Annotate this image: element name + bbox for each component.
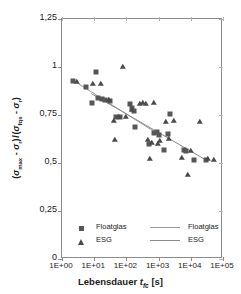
- data-point-esg: [129, 107, 135, 112]
- data-point-esg: [150, 100, 156, 105]
- data-point-floatglas: [157, 132, 162, 137]
- y-axis-tick-label: 1: [52, 61, 57, 70]
- data-point-esg: [122, 113, 128, 118]
- data-point-floatglas: [89, 100, 94, 105]
- legend-line-label: Floatglas: [188, 222, 218, 231]
- x-axis-tick-top: [191, 17, 192, 21]
- data-point-floatglas: [192, 158, 197, 163]
- y-axis-title: (σmax - σr) / (σfqs - σr): [11, 97, 23, 179]
- data-point-esg: [171, 118, 177, 123]
- data-point-esg: [211, 156, 217, 161]
- legend-row: ESGESG: [78, 234, 218, 246]
- y-axis-tick-label: 0,25: [39, 205, 57, 214]
- data-point-esg: [143, 101, 149, 106]
- y-axis-tick-labels: 00,250,50,7511,25: [0, 0, 57, 294]
- y-axis-tick: [58, 211, 62, 212]
- legend-row: FloatglasFloatglas: [78, 221, 218, 233]
- square-marker-icon: [78, 224, 87, 233]
- y-axis-tick: [58, 115, 62, 116]
- x-axis-tick-label: 1E+05: [210, 261, 233, 270]
- x-axis-tick-top: [62, 17, 63, 21]
- x-axis-tick-top: [159, 17, 160, 21]
- x-axis-tick-label: 1E+04: [178, 261, 201, 270]
- data-point-esg: [90, 81, 96, 86]
- triangle-marker-icon: [78, 237, 87, 246]
- data-point-esg: [112, 137, 118, 142]
- legend-marker-label: Floatglas: [96, 222, 126, 231]
- x-axis-tick-labels: 1E+001E+011E+021E+031E+041E+05: [0, 261, 241, 275]
- data-point-esg: [157, 138, 163, 143]
- x-axis-title-text: Lebensdauer: [78, 276, 137, 287]
- y-axis-tick-right: [219, 67, 223, 68]
- x-axis-tick-top: [126, 17, 127, 21]
- data-point-esg: [166, 136, 172, 141]
- data-point-floatglas: [83, 85, 88, 90]
- y-axis-tick-right: [219, 211, 223, 212]
- y-axis-title-wrapper: (σmax - σr) / (σfqs - σr): [10, 18, 24, 258]
- data-point-esg: [110, 118, 116, 123]
- legend-marker-label: ESG: [96, 235, 112, 244]
- data-point-esg: [74, 79, 80, 84]
- data-point-floatglas: [133, 125, 138, 130]
- legend-line-label: ESG: [188, 235, 204, 244]
- data-point-esg: [178, 155, 184, 160]
- y-axis-tick-right: [219, 163, 223, 164]
- legend-line-swatch: [150, 240, 180, 241]
- x-axis-tick-top: [94, 17, 95, 21]
- chart-container: 00,250,50,7511,25 (σmax - σr) / (σfqs - …: [0, 0, 241, 294]
- y-axis-tick-label: 0,5: [44, 157, 57, 166]
- x-axis-title-unit: [s]: [151, 276, 163, 287]
- y-axis-tick-label: 0,75: [39, 109, 57, 118]
- x-axis-tick-label: 1E+02: [114, 261, 137, 270]
- data-point-floatglas: [93, 69, 98, 74]
- y-axis-tick-right: [219, 115, 223, 116]
- x-axis-tick-label: 1E+01: [82, 261, 105, 270]
- data-point-floatglas: [162, 147, 167, 152]
- data-point-esg: [98, 81, 104, 86]
- data-point-esg: [105, 97, 111, 102]
- legend-marker-glyph: [79, 226, 84, 231]
- x-axis-tick-label: 1E+03: [146, 261, 169, 270]
- chart-legend: FloatglasFloatglasESGESG: [78, 221, 218, 251]
- y-axis-tick-label: 1,25: [39, 13, 57, 22]
- data-point-esg: [147, 156, 153, 161]
- legend-line-swatch: [150, 227, 180, 228]
- data-point-esg: [197, 119, 203, 124]
- data-point-esg: [163, 119, 169, 124]
- y-axis-tick: [58, 67, 62, 68]
- x-axis-title: Lebensdauer tfc [s]: [0, 276, 241, 289]
- legend-marker-glyph: [78, 239, 84, 245]
- data-point-esg: [188, 148, 194, 153]
- x-axis-tick-label: 1E+00: [49, 261, 72, 270]
- data-point-esg: [184, 172, 190, 177]
- data-point-floatglas: [168, 111, 173, 116]
- y-axis-tick: [58, 163, 62, 164]
- x-axis-tick-top: [223, 17, 224, 21]
- data-point-esg: [120, 64, 126, 69]
- data-point-esg: [116, 113, 122, 118]
